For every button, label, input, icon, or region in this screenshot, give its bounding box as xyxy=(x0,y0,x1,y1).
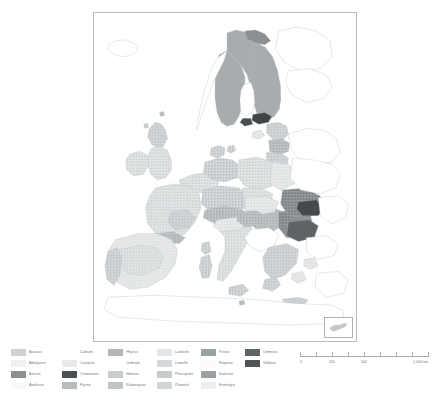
legend-swatch xyxy=(108,371,123,378)
legend-label: Planouls xyxy=(175,382,189,389)
cyprus-inset xyxy=(324,317,353,338)
legend-item[interactable]: Flyrent xyxy=(62,381,108,389)
europe-choropleth xyxy=(94,13,356,341)
legend-item[interactable]: Hohous xyxy=(108,370,157,378)
scale-bar-tick xyxy=(316,352,317,357)
legend-swatch xyxy=(245,360,260,367)
legend-swatch xyxy=(201,360,216,367)
legend-item[interactable]: Aurarus xyxy=(11,348,62,356)
legend-label: Enmelgus xyxy=(219,382,235,389)
legend-column-4: Larkords Lumulls Phasupims Planouls xyxy=(157,348,201,389)
legend-label: Awrlacos xyxy=(29,382,44,389)
legend-label: Ordinals xyxy=(126,360,140,367)
legend-item[interactable]: Ordinals xyxy=(108,359,157,367)
legend-label: Kabanuyros xyxy=(126,382,146,389)
legend-label: Carlipuls xyxy=(80,360,94,367)
legend-swatch xyxy=(201,382,216,389)
legend-swatch xyxy=(62,382,77,389)
scale-bar-tick xyxy=(332,352,333,357)
legend-swatch xyxy=(11,349,26,356)
legend-item[interactable]: Awrlacos xyxy=(11,381,62,389)
legend-item[interactable]: Enmelgus xyxy=(201,381,245,389)
legend-label: Flojosus xyxy=(219,360,233,367)
legend-item[interactable]: Cabrum xyxy=(62,348,108,356)
legend-swatch xyxy=(11,371,26,378)
legend-item[interactable]: Planouls xyxy=(157,381,201,389)
legend-swatch xyxy=(157,382,172,389)
legend-column-1: Aurarus Abalyarois Aetirus Awrlacos xyxy=(11,348,62,389)
legend-label: Aurarus xyxy=(29,349,42,356)
legend-item[interactable]: Velbous xyxy=(245,359,289,367)
map-legend: Aurarus Abalyarois Aetirus Awrlacos Cabr… xyxy=(11,348,289,389)
legend-swatch xyxy=(201,349,216,356)
cyprus-inset-shape xyxy=(325,318,352,337)
scale-bar-tick xyxy=(396,352,397,357)
legend-item[interactable]: Kabanuyros xyxy=(108,381,157,389)
scale-bar-tick xyxy=(364,352,365,357)
scale-bar-tick xyxy=(412,352,413,357)
legend-item[interactable]: Carlipuls xyxy=(62,359,108,367)
legend-swatch xyxy=(245,349,260,356)
scale-bar-label: 500 xyxy=(361,360,367,364)
legend-item[interactable]: Phasupims xyxy=(157,370,201,378)
legend-label: Hnyrus xyxy=(126,349,138,356)
legend-swatch xyxy=(11,360,26,367)
scale-bar-label: 250 xyxy=(329,360,335,364)
legend-item[interactable]: Hnyrus xyxy=(108,348,157,356)
legend-item[interactable]: Protus xyxy=(201,348,245,356)
legend-label: Flyrent xyxy=(80,382,91,389)
legend-swatch xyxy=(108,360,123,367)
legend-swatch xyxy=(11,382,26,389)
legend-swatch xyxy=(62,349,77,356)
legend-swatch xyxy=(62,360,77,367)
legend-label: Phasupims xyxy=(175,371,193,378)
legend-swatch xyxy=(201,371,216,378)
legend-label: Ummess xyxy=(263,349,277,356)
legend-item[interactable]: Chamosets xyxy=(62,370,108,378)
legend-item[interactable]: Larkords xyxy=(157,348,201,356)
legend-swatch xyxy=(157,349,172,356)
legend-swatch xyxy=(108,349,123,356)
legend-label: Lumulls xyxy=(175,360,188,367)
legend-item[interactable]: Sufectas xyxy=(201,370,245,378)
legend-item[interactable]: Ummess xyxy=(245,348,289,356)
legend-label: Chamosets xyxy=(80,371,99,378)
legend-label: Sufectas xyxy=(219,371,233,378)
legend-column-5: Protus Flojosus Sufectas Enmelgus xyxy=(201,348,245,389)
map-figure xyxy=(93,12,357,342)
legend-label: Hohous xyxy=(126,371,139,378)
legend-swatch xyxy=(157,360,172,367)
scale-bar-label: 0 xyxy=(300,360,302,364)
legend-column-2: Cabrum Carlipuls Chamosets Flyrent xyxy=(62,348,108,389)
legend-column-6: Ummess Velbous xyxy=(245,348,289,389)
legend-item[interactable]: Lumulls xyxy=(157,359,201,367)
scale-bar-tick xyxy=(380,352,381,357)
legend-swatch xyxy=(108,382,123,389)
legend-column-3: Hnyrus Ordinals Hohous Kabanuyros xyxy=(108,348,157,389)
legend-label: Abalyarois xyxy=(29,360,46,367)
scale-bar-label: 1,000 km xyxy=(413,360,428,364)
legend-item[interactable]: Flojosus xyxy=(201,359,245,367)
scale-bar-tick xyxy=(300,352,301,357)
scale-bar-tick xyxy=(428,352,429,357)
legend-swatch xyxy=(157,371,172,378)
scale-bar-tick xyxy=(348,352,349,357)
legend-label: Velbous xyxy=(263,360,276,367)
legend-label: Cabrum xyxy=(80,349,93,356)
legend-label: Protus xyxy=(219,349,230,356)
legend-label: Larkords xyxy=(175,349,189,356)
legend-item[interactable]: Abalyarois xyxy=(11,359,62,367)
legend-item[interactable]: Aetirus xyxy=(11,370,62,378)
legend-swatch xyxy=(62,371,77,378)
scale-bar: 02505001,000 km xyxy=(300,352,428,374)
legend-label: Aetirus xyxy=(29,371,41,378)
